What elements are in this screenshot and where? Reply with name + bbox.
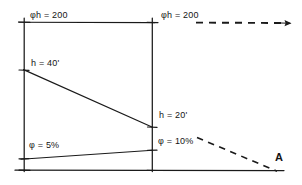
label-phi-10: φ = 10% <box>158 137 194 146</box>
label-h-20: h = 20' <box>159 111 187 120</box>
label-phi-h-right: φh = 200 <box>161 11 199 20</box>
head-line-dashed <box>197 138 277 172</box>
label-point-a: A <box>275 152 283 163</box>
head-line-solid <box>24 70 153 128</box>
label-phi-5: φ = 5% <box>29 141 59 150</box>
label-h-40: h = 40' <box>31 59 59 68</box>
diagram-canvas <box>0 0 302 185</box>
label-phi-h-left: φh = 200 <box>30 11 68 20</box>
phi-gradient-line <box>21 150 153 159</box>
engineering-diagram: φh = 200 φh = 200 h = 40' h = 20' φ = 5%… <box>0 0 302 185</box>
right-arrow-icon <box>281 20 292 26</box>
